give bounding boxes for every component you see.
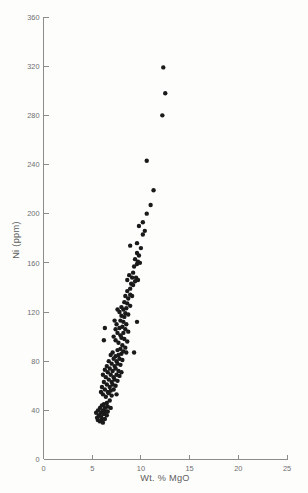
data-point bbox=[114, 392, 118, 396]
data-point bbox=[115, 348, 119, 352]
data-point bbox=[160, 113, 164, 117]
data-point bbox=[103, 326, 107, 330]
data-point bbox=[106, 409, 110, 413]
data-point bbox=[133, 257, 137, 261]
data-point bbox=[125, 339, 129, 343]
data-point bbox=[135, 320, 139, 324]
x-tick-label: 15 bbox=[185, 464, 193, 473]
data-point bbox=[101, 372, 105, 376]
data-point bbox=[101, 420, 105, 424]
data-point bbox=[125, 278, 129, 282]
y-tick-label: 120 bbox=[27, 308, 39, 317]
data-point bbox=[145, 159, 149, 163]
data-point bbox=[141, 220, 145, 224]
data-point bbox=[141, 232, 145, 236]
x-tick-label: 0 bbox=[41, 464, 45, 473]
data-point bbox=[109, 406, 113, 410]
y-tick-label: 320 bbox=[27, 62, 39, 71]
data-point bbox=[100, 385, 104, 389]
data-point bbox=[96, 418, 100, 422]
data-point bbox=[123, 294, 127, 298]
x-axis-ticks: 0510152025 bbox=[41, 455, 291, 473]
y-tick-label: 280 bbox=[27, 111, 39, 120]
data-point bbox=[126, 312, 130, 316]
x-tick-label: 5 bbox=[90, 464, 94, 473]
data-point bbox=[128, 304, 132, 308]
x-axis-title: Wt. % MgO bbox=[140, 473, 190, 483]
scatter-plot-figure: 04080120160200240280320360 0510152025 Wt… bbox=[0, 0, 308, 493]
data-point bbox=[115, 379, 119, 383]
data-point bbox=[124, 350, 128, 354]
data-point bbox=[151, 188, 155, 192]
data-point bbox=[132, 350, 136, 354]
data-point bbox=[132, 264, 136, 268]
data-point bbox=[130, 294, 134, 298]
data-point bbox=[103, 368, 107, 372]
data-point bbox=[139, 246, 143, 250]
data-point bbox=[107, 359, 111, 363]
y-tick-label: 160 bbox=[27, 259, 39, 268]
data-point bbox=[124, 322, 128, 326]
data-point bbox=[102, 380, 106, 384]
x-tick-label: 20 bbox=[234, 464, 242, 473]
data-point bbox=[111, 334, 115, 338]
data-point bbox=[131, 270, 135, 274]
data-point bbox=[117, 326, 121, 330]
data-point bbox=[126, 329, 130, 333]
data-point bbox=[111, 357, 115, 361]
data-point bbox=[109, 353, 113, 357]
y-tick-label: 200 bbox=[27, 209, 39, 218]
data-point bbox=[161, 65, 165, 69]
data-point bbox=[94, 411, 98, 415]
data-point bbox=[148, 203, 152, 207]
y-tick-label: 80 bbox=[31, 357, 39, 366]
data-point bbox=[120, 358, 124, 362]
data-points-group bbox=[94, 65, 168, 425]
y-tick-label: 0 bbox=[35, 455, 39, 464]
data-point bbox=[135, 251, 139, 255]
y-tick-label: 360 bbox=[27, 13, 39, 22]
data-point bbox=[117, 374, 121, 378]
y-tick-label: 40 bbox=[31, 406, 39, 415]
y-axis-ticks: 04080120160200240280320360 bbox=[27, 13, 48, 465]
data-point bbox=[145, 211, 149, 215]
data-point bbox=[163, 91, 167, 95]
data-point bbox=[127, 273, 131, 277]
axes-group bbox=[44, 17, 288, 460]
data-point bbox=[118, 363, 122, 367]
data-point bbox=[99, 390, 103, 394]
data-point bbox=[107, 391, 111, 395]
y-axis-title: Ni (ppm) bbox=[11, 221, 21, 259]
data-point bbox=[112, 318, 116, 322]
y-tick-label: 240 bbox=[27, 160, 39, 169]
data-point bbox=[137, 224, 141, 228]
data-point bbox=[115, 307, 119, 311]
x-tick-label: 10 bbox=[137, 464, 145, 473]
data-point bbox=[131, 283, 135, 287]
data-point bbox=[102, 338, 106, 342]
x-tick-label: 25 bbox=[283, 464, 291, 473]
data-point bbox=[135, 241, 139, 245]
data-point bbox=[119, 305, 123, 309]
data-point bbox=[125, 289, 129, 293]
chart-canvas: 04080120160200240280320360 0510152025 Wt… bbox=[0, 0, 308, 493]
data-point bbox=[128, 243, 132, 247]
data-point bbox=[113, 327, 117, 331]
